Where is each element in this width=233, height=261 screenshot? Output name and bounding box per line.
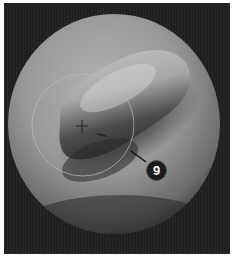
viewport-canvas[interactable] (4, 3, 230, 254)
callout-number: 9 (153, 163, 160, 178)
callout-badge: 9 (146, 160, 167, 181)
sculpt-viewport[interactable]: 9 (4, 3, 230, 254)
